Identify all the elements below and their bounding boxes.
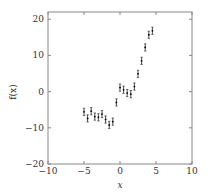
data-point	[134, 86, 136, 88]
y-tick-label: 10	[33, 50, 45, 60]
data-point	[105, 119, 107, 121]
data-point	[123, 89, 125, 91]
y-tick-label: −10	[25, 123, 44, 133]
data-point	[141, 60, 143, 62]
x-tick-label: 0	[117, 166, 123, 176]
data-point	[98, 116, 100, 118]
data-point	[116, 102, 118, 104]
x-tick-label: −5	[77, 166, 91, 176]
data-point	[101, 113, 103, 115]
data-point	[152, 30, 154, 32]
x-tick-label: 5	[153, 166, 159, 176]
data-point	[83, 111, 85, 113]
x-tick-label: 10	[186, 166, 198, 176]
x-axis-label: x	[117, 180, 122, 190]
data-point	[130, 93, 132, 95]
data-point	[112, 121, 114, 123]
y-tick-label: 0	[38, 87, 44, 97]
data-point	[144, 47, 146, 49]
data-point	[119, 87, 121, 89]
data-point	[148, 34, 150, 36]
y-axis-label: f(x)	[8, 84, 18, 99]
y-tick-label: −20	[25, 159, 44, 169]
data-point	[126, 92, 128, 94]
data-point	[87, 117, 89, 119]
chart: −10−50510−20−1001020xf(x)	[0, 0, 210, 195]
data-point	[137, 73, 139, 75]
y-tick-label: 20	[33, 14, 45, 24]
data-point	[108, 124, 110, 126]
data-point	[90, 110, 92, 112]
data-point	[94, 116, 96, 118]
